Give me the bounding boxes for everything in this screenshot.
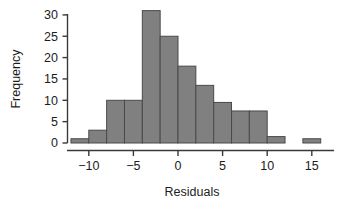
x-tick-label: −5 [126,159,140,173]
y-tick-label: 5 [51,115,58,129]
x-tick-label: 15 [305,159,319,173]
x-tick-label: 0 [175,159,182,173]
histogram-bar [124,100,142,143]
x-axis-title: Residuals [165,185,220,199]
x-axis-ticks: −10−5051015 [78,151,319,174]
histogram-bar [214,102,232,143]
y-axis-ticks: 051015202530 [44,8,67,150]
x-tick-label: 10 [260,159,274,173]
histogram-chart: 051015202530 −10−5051015 Frequency Resid… [0,0,342,211]
plot-area: 051015202530 −10−5051015 Frequency Resid… [0,0,342,211]
histogram-bar [107,100,125,143]
histogram-bar [89,130,107,143]
histogram-bar [71,139,89,143]
histogram-bar [160,36,178,143]
y-tick-label: 25 [44,30,58,44]
histogram-bar [178,66,196,143]
y-axis-title: Frequency [9,49,23,109]
histogram-bar [232,111,250,143]
y-tick-label: 30 [44,8,58,22]
y-tick-label: 20 [44,51,58,65]
histogram-bars [71,11,321,143]
y-tick-label: 0 [51,136,58,150]
histogram-bar [196,85,214,143]
y-tick-label: 15 [44,72,58,86]
y-tick-label: 10 [44,94,58,108]
x-tick-label: 5 [219,159,226,173]
x-tick-label: −10 [78,159,99,173]
histogram-bar [249,111,267,143]
histogram-bar [267,137,285,143]
histogram-bar [303,139,321,143]
histogram-bar [142,11,160,143]
